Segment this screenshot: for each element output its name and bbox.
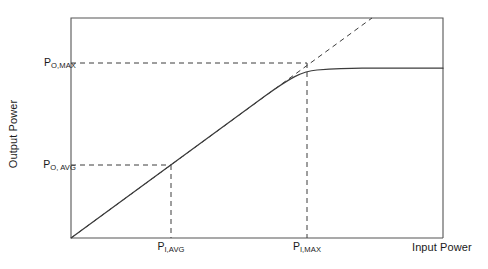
- chart-figure: Output Power Input Power PO,MAX PO, AVG …: [0, 0, 488, 269]
- y-axis-title: Output Power: [7, 89, 19, 179]
- output-power-curve: [71, 68, 443, 238]
- y-tick-label-po-max: PO,MAX: [44, 57, 76, 68]
- pi-avg-subscript: I,AVG: [164, 245, 184, 254]
- x-tick-label-pi-avg: PI,AVG: [157, 241, 184, 252]
- po-avg-subscript: O, AVG: [50, 163, 76, 172]
- y-tick-label-po-avg: PO, AVG: [43, 159, 76, 170]
- po-max-base: P: [44, 56, 51, 68]
- x-axis-title: Input Power: [412, 241, 472, 253]
- transfer-curve-plot: [0, 0, 488, 269]
- pi-avg-base: P: [157, 240, 164, 252]
- plot-frame: [71, 18, 443, 238]
- pi-max-base: P: [293, 240, 300, 252]
- pi-max-subscript: I,MAX: [300, 245, 321, 254]
- po-max-subscript: O,MAX: [51, 61, 76, 70]
- x-tick-label-pi-max: PI,MAX: [293, 241, 321, 252]
